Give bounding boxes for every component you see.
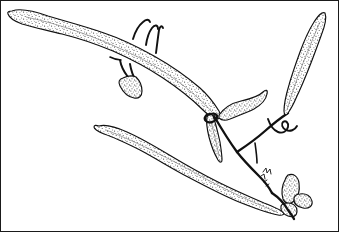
hook-appendage-c [156,26,163,53]
small-leaflet [119,76,142,98]
hook-appendage-b [146,25,158,45]
stipe-spur [255,143,257,163]
lower-hook-stub [110,57,121,60]
lower-hook-pair [120,60,128,77]
botanical-illustration-svg [0,0,339,232]
central-small-blade [219,90,267,120]
illustration-group [8,10,326,219]
figure-root [0,0,339,232]
upper-left-blade [8,10,221,119]
right-lanceolate-blade [284,13,326,115]
main-stipe [214,116,272,193]
